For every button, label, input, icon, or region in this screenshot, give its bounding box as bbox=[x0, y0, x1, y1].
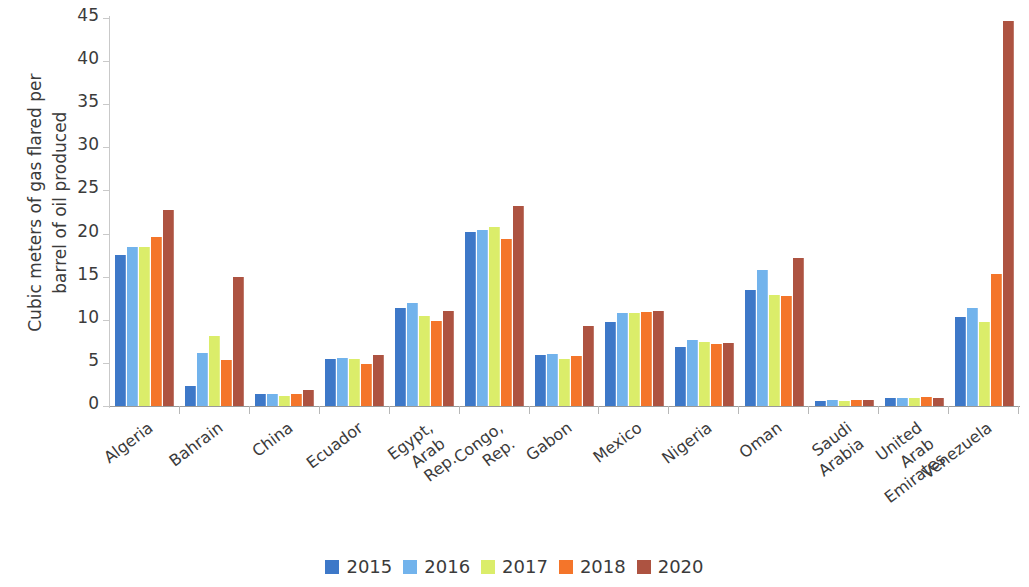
y-tick-mark bbox=[103, 363, 110, 364]
x-tick-mark bbox=[529, 406, 530, 414]
bar bbox=[827, 400, 838, 406]
legend-item[interactable]: 2020 bbox=[637, 556, 704, 577]
bar bbox=[793, 258, 804, 406]
legend-swatch-icon bbox=[559, 560, 573, 574]
y-tick-label: 30 bbox=[55, 136, 99, 153]
legend-swatch-icon bbox=[403, 560, 417, 574]
bar bbox=[641, 312, 652, 406]
bar bbox=[723, 343, 734, 406]
bar bbox=[267, 394, 278, 406]
bar bbox=[933, 398, 944, 406]
legend-label: 2015 bbox=[346, 556, 392, 577]
bar bbox=[513, 206, 524, 406]
bar bbox=[303, 390, 314, 406]
x-axis-label: Saudi Arabia bbox=[803, 418, 868, 480]
bar bbox=[325, 359, 336, 406]
x-label-cell: Oman bbox=[739, 414, 809, 524]
legend-item[interactable]: 2017 bbox=[481, 556, 548, 577]
y-tick-label: 35 bbox=[55, 93, 99, 110]
bar bbox=[699, 342, 710, 406]
bar-group bbox=[250, 18, 320, 406]
x-tick-mark bbox=[878, 406, 879, 414]
bar bbox=[839, 401, 850, 406]
x-tick-mark bbox=[179, 406, 180, 414]
legend: 20152016201720182020 bbox=[0, 556, 1029, 577]
legend-item[interactable]: 2018 bbox=[559, 556, 626, 577]
y-tick-label: 10 bbox=[55, 309, 99, 326]
x-axis-label: China bbox=[248, 418, 296, 461]
bar bbox=[675, 347, 686, 406]
bar bbox=[967, 308, 978, 406]
x-axis-label: Gabon bbox=[523, 418, 577, 465]
bar-group bbox=[949, 18, 1019, 406]
bar bbox=[361, 364, 372, 406]
bar bbox=[255, 394, 266, 406]
x-label-cell: Egypt, Arab Rep. bbox=[390, 414, 460, 524]
bar bbox=[921, 397, 932, 406]
bar bbox=[617, 313, 628, 406]
bar bbox=[769, 295, 780, 406]
bar-groups bbox=[110, 18, 1019, 406]
legend-label: 2018 bbox=[580, 556, 626, 577]
bar bbox=[139, 247, 150, 406]
bar bbox=[909, 398, 920, 406]
bar bbox=[605, 322, 616, 406]
bar bbox=[127, 247, 138, 406]
bar bbox=[477, 230, 488, 406]
bar bbox=[407, 303, 418, 406]
bar bbox=[979, 322, 990, 406]
bar bbox=[185, 386, 196, 406]
x-label-cell: Nigeria bbox=[669, 414, 739, 524]
y-tick-mark bbox=[103, 277, 110, 278]
bar bbox=[465, 232, 476, 406]
x-tick-mark bbox=[598, 406, 599, 414]
bar bbox=[559, 359, 570, 406]
bar bbox=[233, 277, 244, 406]
x-label-cell: Congo, Rep. bbox=[460, 414, 530, 524]
legend-label: 2020 bbox=[658, 556, 704, 577]
x-tick-mark bbox=[459, 406, 460, 414]
bar bbox=[419, 316, 430, 406]
bar bbox=[711, 344, 722, 406]
y-tick-mark bbox=[103, 61, 110, 62]
bar bbox=[443, 311, 454, 406]
bar bbox=[851, 400, 862, 406]
bar bbox=[291, 394, 302, 406]
bar bbox=[337, 358, 348, 406]
legend-item[interactable]: 2015 bbox=[325, 556, 392, 577]
bar-group bbox=[739, 18, 809, 406]
bar bbox=[1003, 21, 1014, 406]
legend-item[interactable]: 2016 bbox=[403, 556, 470, 577]
bar bbox=[757, 270, 768, 406]
bar bbox=[687, 340, 698, 406]
bar bbox=[163, 210, 174, 406]
y-tick-mark bbox=[103, 320, 110, 321]
bar bbox=[115, 255, 126, 406]
y-tick-mark bbox=[103, 234, 110, 235]
bar bbox=[209, 336, 220, 406]
bar-group bbox=[530, 18, 600, 406]
bar bbox=[745, 290, 756, 406]
bar bbox=[583, 326, 594, 406]
y-tick-label: 40 bbox=[55, 50, 99, 67]
y-tick-label: 25 bbox=[55, 179, 99, 196]
bar bbox=[571, 356, 582, 406]
legend-label: 2016 bbox=[424, 556, 470, 577]
legend-swatch-icon bbox=[637, 560, 651, 574]
x-label-cell: Ecuador bbox=[320, 414, 390, 524]
x-axis-label: Algeria bbox=[100, 418, 157, 467]
bar bbox=[815, 401, 826, 406]
x-label-cell: Mexico bbox=[599, 414, 669, 524]
x-tick-mark bbox=[808, 406, 809, 414]
bar bbox=[897, 398, 908, 406]
bar-group bbox=[180, 18, 250, 406]
bar bbox=[863, 400, 874, 406]
x-axis-category-labels: AlgeriaBahrainChinaEcuadorEgypt, Arab Re… bbox=[110, 414, 1019, 524]
x-tick-mark bbox=[948, 406, 949, 414]
x-tick-mark bbox=[249, 406, 250, 414]
y-tick-mark bbox=[103, 406, 110, 407]
bar-group bbox=[320, 18, 390, 406]
bar bbox=[955, 317, 966, 406]
x-axis-line bbox=[110, 406, 1020, 407]
y-tick-mark bbox=[103, 104, 110, 105]
